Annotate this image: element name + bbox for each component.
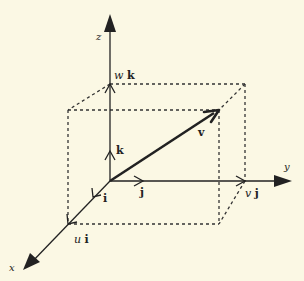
vj-label: v j <box>245 187 259 200</box>
vector-v-label: v <box>197 126 205 139</box>
x-axis <box>30 181 110 264</box>
y-axis-label: y <box>283 161 290 172</box>
j-unit: j <box>254 187 259 200</box>
i-unit: i <box>85 233 89 246</box>
unit-i-label: i <box>103 192 107 205</box>
y-axis-arrowhead-icon <box>274 175 292 187</box>
vector-diagram: z y x k j i v w k v j u i <box>0 0 304 281</box>
unit-j-label: j <box>139 186 144 199</box>
z-axis-arrowhead-icon <box>104 14 116 32</box>
u-scalar: u <box>74 233 81 246</box>
wk-label: w k <box>114 69 135 82</box>
x-axis-label: x <box>9 262 15 273</box>
vector-v <box>110 113 214 181</box>
k-unit: k <box>127 69 135 82</box>
z-axis-label: z <box>95 31 102 42</box>
w-scalar: w <box>114 69 124 82</box>
dashed-box <box>68 84 245 224</box>
v-scalar: v <box>245 187 252 200</box>
ui-label: u i <box>74 233 89 246</box>
unit-k-label: k <box>116 144 124 157</box>
